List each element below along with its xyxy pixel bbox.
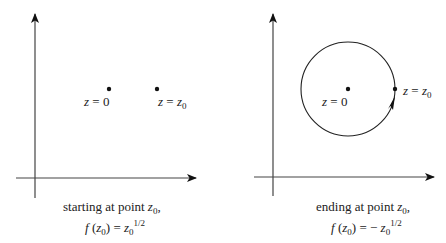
left-caption-line1: starting at point z0, (63, 200, 161, 213)
right-z0-label: z = z0 (403, 84, 431, 97)
diagram-canvas: z = 0 z = z0 starting at point z0, f (z0… (0, 0, 446, 243)
left-z0-point (155, 87, 159, 91)
left-origin-point (107, 87, 111, 91)
left-origin-label: z = 0 (84, 95, 109, 108)
right-z0-point (393, 87, 397, 91)
left-caption-line2: f (z0) = z01/2 (85, 221, 145, 234)
left-z0-label: z = z0 (158, 95, 186, 108)
right-caption-line1: ending at point z0, (316, 200, 410, 213)
right-origin-point (346, 87, 350, 91)
right-origin-label: z = 0 (322, 95, 347, 108)
right-caption-line2: f (z0) = − z01/2 (331, 221, 402, 234)
